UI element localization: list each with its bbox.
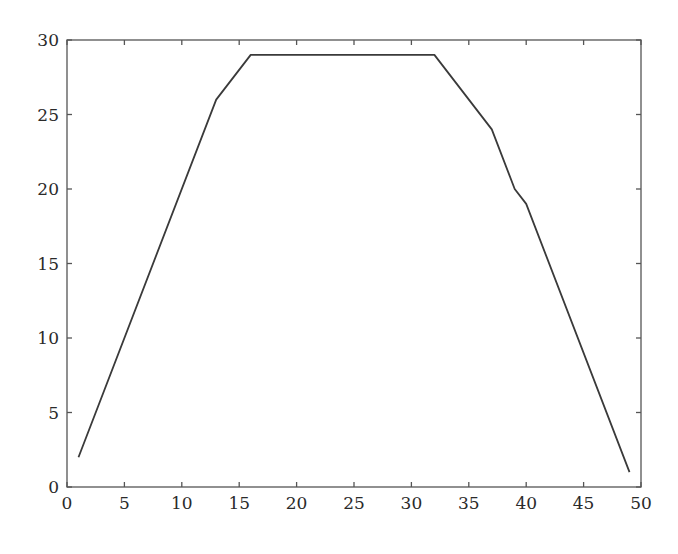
x-tick-label: 20 (286, 493, 308, 513)
x-tick-label: 10 (171, 493, 193, 513)
y-tick-label: 25 (37, 105, 59, 125)
y-tick-label: 10 (37, 328, 59, 348)
y-tick-label: 5 (48, 403, 59, 423)
y-tick-label: 20 (37, 179, 59, 199)
x-tick-label: 40 (515, 493, 537, 513)
x-tick-label: 0 (62, 493, 73, 513)
x-axis: 05101520253035404550 (62, 40, 652, 513)
x-tick-label: 15 (228, 493, 250, 513)
y-axis: 051015202530 (37, 30, 641, 497)
x-tick-label: 50 (630, 493, 652, 513)
x-tick-label: 45 (573, 493, 595, 513)
x-tick-label: 35 (458, 493, 480, 513)
y-tick-label: 0 (48, 477, 59, 497)
data-line (79, 55, 630, 472)
x-tick-label: 5 (119, 493, 130, 513)
x-tick-label: 25 (343, 493, 365, 513)
y-tick-label: 15 (37, 254, 59, 274)
y-tick-label: 30 (37, 30, 59, 50)
line-chart: 05101520253035404550 051015202530 (0, 0, 678, 554)
x-tick-label: 30 (401, 493, 423, 513)
